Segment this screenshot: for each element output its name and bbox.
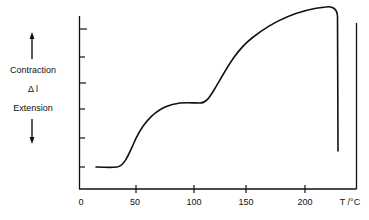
x-axis-unit-label: T /°C [340,197,360,207]
x-tick-label-200: 200 [297,197,312,207]
y-label-contraction: Contraction [0,65,66,75]
x-tick-label-50: 50 [130,197,140,207]
y-ticks [79,29,87,167]
arrow-up-icon [30,32,35,59]
y-label-delta-l: Δ l [0,84,66,94]
x-tick-label-0: 0 [78,197,83,207]
x-tick-label-100: 100 [186,197,201,207]
arrow-down-icon [30,119,35,144]
y-label-extension: Extension [0,103,66,113]
dilatometric-curve [96,7,338,168]
x-tick-label-150: 150 [238,197,253,207]
